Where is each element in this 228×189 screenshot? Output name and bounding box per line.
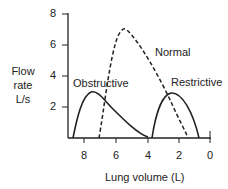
series-label-obstructive: Obstructive xyxy=(73,77,129,89)
x-tick-label-2: 2 xyxy=(176,150,182,161)
y-ticks xyxy=(62,14,68,107)
x-tick-label-0: 0 xyxy=(207,150,213,161)
x-axis-title: Lung volume (L) xyxy=(105,171,185,183)
y-tick-label-4: 4 xyxy=(50,70,56,81)
y-tick-label-8: 8 xyxy=(50,8,56,19)
y-tick-label-6: 6 xyxy=(50,39,56,50)
x-tick-label-4: 4 xyxy=(145,150,151,161)
series-label-restrictive: Restrictive xyxy=(171,76,222,88)
y-axis-title: Flow rate L/s xyxy=(8,64,38,106)
y-axis-title-line-1: Flow xyxy=(8,64,38,78)
series-obstructive-curve xyxy=(73,92,148,138)
y-axis-title-line-3: L/s xyxy=(8,92,38,106)
series-label-normal: Normal xyxy=(155,46,190,58)
series-restrictive-curve xyxy=(152,93,199,138)
x-tick-label-8: 8 xyxy=(81,150,87,161)
y-tick-label-2: 2 xyxy=(50,101,56,112)
y-axis-title-line-2: rate xyxy=(8,78,38,92)
x-tick-label-6: 6 xyxy=(113,150,119,161)
